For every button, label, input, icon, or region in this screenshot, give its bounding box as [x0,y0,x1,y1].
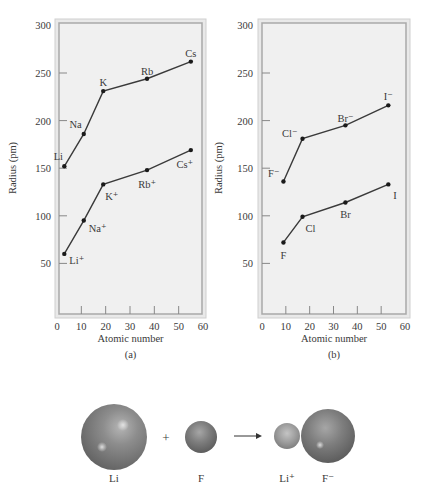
point-label: Rb⁺ [138,179,156,190]
x-tick-label: 40 [149,321,160,332]
y-tick-label: 250 [35,68,51,79]
x-tick-label: 0 [259,321,264,332]
data-point [145,168,149,172]
y-tick-label: 150 [35,163,51,174]
x-tick-label: 10 [76,321,87,332]
f-ion-sphere [301,409,355,463]
ionic-radius-charts: 501001502002503000102030405060Atomic num… [0,0,429,370]
y-tick-label: 50 [41,258,52,269]
x-tick-label: 30 [125,321,136,332]
reaction-diagram: + Li F Li⁺ F⁻ [0,380,429,492]
data-point [101,89,105,93]
reaction-arrow [234,433,262,439]
y-tick-label: 100 [35,211,51,222]
x-tick-label: 20 [304,321,315,332]
point-label: Na [70,119,83,130]
data-point [281,240,285,244]
x-tick-label: 10 [281,321,292,332]
x-tick-label: 50 [173,321,184,332]
point-label: K⁺ [105,191,118,202]
plot-area [262,23,406,314]
data-point [300,215,304,219]
point-label: Na⁺ [89,223,107,234]
label-li: Li [109,472,119,484]
point-label: Li [54,151,63,162]
plus-sign: + [162,430,169,445]
data-point [82,218,86,222]
y-tick-label: 300 [35,20,51,31]
point-label: Br⁻ [337,113,353,124]
point-label: Cl [306,223,316,234]
data-point [281,179,285,183]
label-li-ion: Li⁺ [279,472,295,484]
x-tick-label: 50 [376,321,387,332]
data-point [145,77,149,81]
y-tick-label: 150 [237,163,253,174]
point-label: Li⁺ [69,255,84,266]
x-tick-label: 0 [54,321,59,332]
data-point [386,182,390,186]
y-axis-title: Radius (pm) [213,141,225,194]
x-tick-label: 30 [328,321,339,332]
y-tick-label: 100 [237,211,253,222]
y-tick-label: 200 [237,116,253,127]
f-atom-sphere [185,421,217,453]
li-ion-sphere [274,423,300,449]
data-point [82,132,86,136]
x-tick-label: 20 [100,321,111,332]
data-point [189,59,193,63]
data-point [62,164,66,168]
x-axis-title: Atomic number [301,333,368,344]
point-label: Cl⁻ [282,128,297,139]
data-point [62,252,66,256]
point-label: I⁻ [384,91,393,102]
label-f: F [198,472,204,484]
data-point [300,136,304,140]
y-tick-label: 200 [35,116,51,127]
point-label: F⁻ [268,168,279,179]
panel-label: (a) [125,349,137,361]
chart-panel-a: 501001502002503000102030405060Atomic num… [7,19,208,361]
data-point [343,200,347,204]
x-axis-title: Atomic number [97,333,164,344]
point-label: F [281,250,287,261]
li-atom-sphere [81,404,147,470]
x-tick-label: 60 [198,321,209,332]
data-point [386,103,390,107]
point-label: I [393,190,397,201]
y-tick-label: 50 [243,258,254,269]
point-label: Cs [185,48,196,59]
point-label: Cs⁺ [177,159,194,170]
data-point [101,182,105,186]
point-label: Rb [141,66,153,77]
point-label: K [99,77,107,88]
data-point [189,148,193,152]
chart-panel-b: 501001502002503000102030405060Atomic num… [213,19,410,361]
y-tick-label: 300 [237,20,253,31]
x-tick-label: 40 [352,321,363,332]
y-tick-label: 250 [237,68,253,79]
point-label: Br [340,209,351,220]
x-tick-label: 60 [400,321,411,332]
y-axis-title: Radius (pm) [7,141,19,194]
panel-label: (b) [328,349,341,361]
label-f-ion: F⁻ [322,472,334,484]
